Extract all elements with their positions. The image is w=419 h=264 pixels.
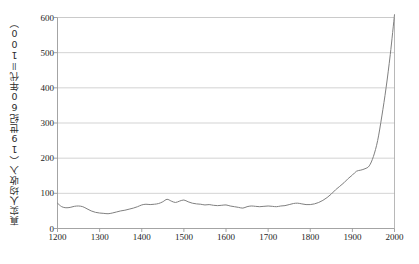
x-axis-tick-label: 1800 [301, 232, 319, 242]
x-axis-tick-label: 1600 [217, 232, 235, 242]
x-axis-tick-labels: 120013001400150016001700180019002000 [0, 232, 419, 248]
chart-figure: 真实人均收入（19世纪60年代＝100） 0100200300400500600… [0, 0, 419, 264]
x-axis-tick-label: 1400 [133, 232, 151, 242]
x-axis-tick-label: 1200 [49, 232, 67, 242]
x-axis-tick-label: 2000 [386, 232, 404, 242]
data-series-line [58, 15, 395, 214]
x-axis-tick-label: 1300 [91, 232, 109, 242]
chart-plot-area [0, 0, 419, 264]
x-axis-tick-label: 1500 [175, 232, 193, 242]
x-axis-tick-label: 1900 [343, 232, 361, 242]
x-axis-tick-label: 1700 [259, 232, 277, 242]
